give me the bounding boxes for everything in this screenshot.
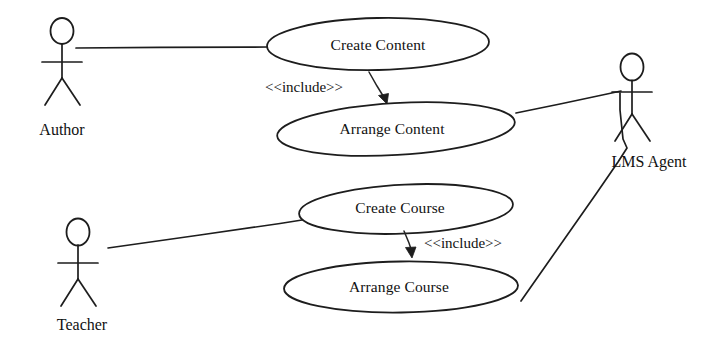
actor-lms-agent-head-icon <box>621 54 644 81</box>
association-arrange-content-lms-agent <box>516 91 621 113</box>
use-case-diagram: Create Content Arrange Content Create Co… <box>0 0 722 349</box>
include-dependency-course: <<include>> <box>404 231 502 258</box>
actor-lms-agent[interactable]: LMS Agent <box>611 54 687 172</box>
diagram-canvas: Create Content Arrange Content Create Co… <box>0 0 722 349</box>
actor-author-head-icon <box>51 18 74 44</box>
actor-teacher-leg-right <box>78 279 96 306</box>
include-arrowhead-content <box>379 94 389 105</box>
actor-author-leg-left <box>45 78 62 105</box>
actor-author-leg-right <box>62 78 80 105</box>
actor-lms-agent-leg-right <box>632 114 650 141</box>
use-case-arrange-content[interactable]: Arrange Content <box>276 96 517 162</box>
include-label-course: <<include>> <box>424 235 502 251</box>
include-arrowhead-course <box>406 247 417 258</box>
include-label-content: <<include>> <box>265 79 343 95</box>
use-case-arrange-course-label: Arrange Course <box>349 278 449 295</box>
association-arrange-course-lms-agent <box>521 93 627 301</box>
use-case-arrange-course[interactable]: Arrange Course <box>284 260 519 314</box>
include-dependency-content: <<include>> <box>265 72 389 104</box>
actor-teacher-leg-left <box>61 279 78 306</box>
use-case-create-content[interactable]: Create Content <box>266 16 489 73</box>
use-case-create-course[interactable]: Create Course <box>298 180 514 239</box>
actor-teacher-label: Teacher <box>57 316 108 333</box>
actor-author[interactable]: Author <box>39 18 85 138</box>
actor-teacher-head-icon <box>67 219 90 246</box>
use-case-create-course-label: Create Course <box>355 199 445 216</box>
use-case-arrange-content-label: Arrange Content <box>339 120 445 137</box>
association-teacher-create-course <box>108 220 302 248</box>
actor-author-label: Author <box>39 121 85 138</box>
use-case-create-content-label: Create Content <box>331 36 426 53</box>
actor-lms-agent-label: LMS Agent <box>611 153 687 171</box>
actor-teacher[interactable]: Teacher <box>57 219 108 334</box>
association-author-create-content <box>76 47 268 48</box>
